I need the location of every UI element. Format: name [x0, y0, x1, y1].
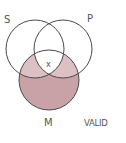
marker-x: x — [46, 60, 51, 69]
label-s: S — [4, 14, 10, 25]
label-m: M — [44, 117, 53, 128]
label-p: P — [87, 13, 93, 24]
verdict-label: VALID — [84, 118, 108, 128]
venn-diagram: S P M x VALID — [0, 0, 126, 143]
